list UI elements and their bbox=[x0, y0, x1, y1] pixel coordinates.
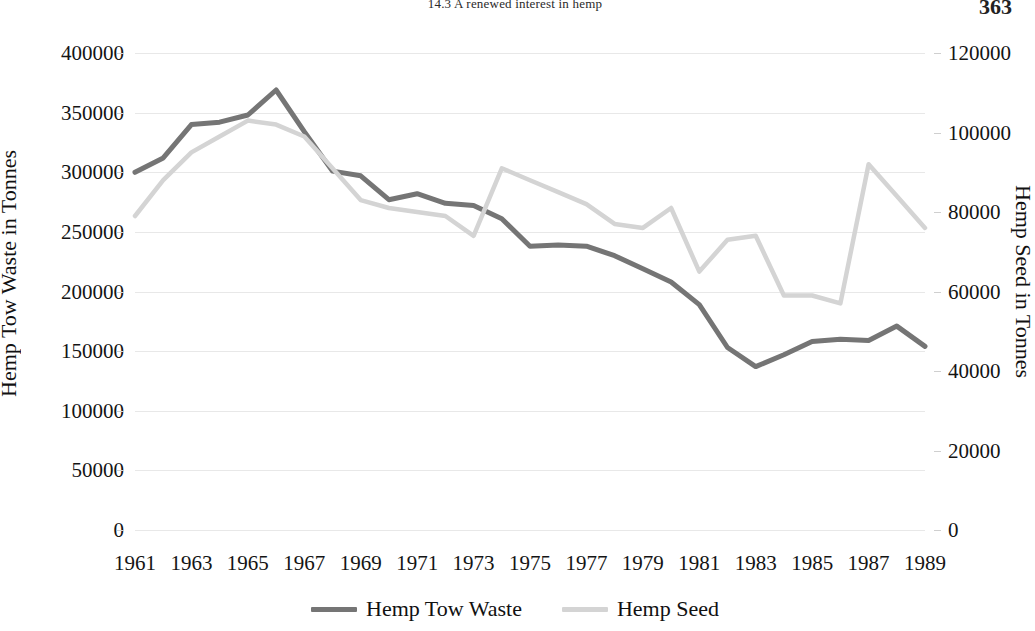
y-axis-right-tick-label: 0 bbox=[948, 518, 959, 543]
tick-mark bbox=[117, 292, 124, 293]
tick-mark bbox=[934, 212, 941, 213]
y-axis-left-tick-label: 150000 bbox=[61, 339, 124, 364]
gridline bbox=[135, 530, 925, 531]
x-axis-tick-label: 1961 bbox=[114, 551, 156, 576]
tick-mark bbox=[934, 53, 941, 54]
x-axis: 1961196319651967196919711973197519771979… bbox=[0, 551, 1030, 581]
y-axis-left-tick-label: 300000 bbox=[61, 160, 124, 185]
chart-legend: Hemp Tow Waste Hemp Seed bbox=[0, 596, 1030, 622]
tick-mark bbox=[117, 172, 124, 173]
y-axis-left-tick-label: 100000 bbox=[61, 398, 124, 423]
y-axis-left-tick-label: 350000 bbox=[61, 100, 124, 125]
x-axis-tick-label: 1973 bbox=[453, 551, 495, 576]
x-axis-tick-label: 1985 bbox=[791, 551, 833, 576]
y-axis-right-tick-label: 20000 bbox=[948, 438, 1001, 463]
x-axis-tick-label: 1981 bbox=[678, 551, 720, 576]
tick-mark bbox=[117, 530, 124, 531]
y-axis-left-tick-label: 200000 bbox=[61, 279, 124, 304]
tick-mark bbox=[934, 371, 941, 372]
y-axis-right-tick-label: 40000 bbox=[948, 359, 1001, 384]
plot-area bbox=[135, 53, 925, 530]
series-line bbox=[135, 90, 925, 367]
tick-mark bbox=[117, 351, 124, 352]
legend-item-hemp-seed[interactable]: Hemp Seed bbox=[562, 596, 719, 622]
legend-swatch-icon bbox=[311, 607, 357, 612]
y-axis-right-title: Hemp Seed in Tonnes bbox=[1010, 185, 1035, 378]
x-axis-tick-label: 1979 bbox=[622, 551, 664, 576]
legend-swatch-icon bbox=[562, 607, 608, 612]
y-axis-right: 020000400006000080000100000120000 Hemp S… bbox=[934, 0, 1030, 631]
y-axis-left-tick-label: 400000 bbox=[61, 41, 124, 66]
tick-mark bbox=[934, 133, 941, 134]
y-axis-left-title: Hemp Tow Waste in Tonnes bbox=[0, 150, 22, 397]
y-axis-right-tick-label: 100000 bbox=[948, 120, 1011, 145]
x-axis-tick-label: 1965 bbox=[227, 551, 269, 576]
tick-mark bbox=[117, 470, 124, 471]
y-axis-left: Hemp Tow Waste in Tonnes 050000100000150… bbox=[0, 0, 124, 631]
tick-mark bbox=[934, 451, 941, 452]
x-axis-tick-label: 1975 bbox=[509, 551, 551, 576]
tick-mark bbox=[117, 53, 124, 54]
x-axis-tick-label: 1989 bbox=[904, 551, 946, 576]
tick-mark bbox=[117, 232, 124, 233]
tick-mark bbox=[934, 292, 941, 293]
x-axis-tick-label: 1987 bbox=[848, 551, 890, 576]
x-axis-tick-label: 1967 bbox=[283, 551, 325, 576]
legend-label: Hemp Seed bbox=[617, 596, 719, 622]
legend-label: Hemp Tow Waste bbox=[366, 596, 522, 622]
y-axis-right-tick-label: 80000 bbox=[948, 200, 1001, 225]
x-axis-tick-label: 1977 bbox=[565, 551, 607, 576]
x-axis-tick-label: 1969 bbox=[340, 551, 382, 576]
series-line bbox=[135, 121, 925, 304]
x-axis-tick-label: 1983 bbox=[735, 551, 777, 576]
legend-item-hemp-tow-waste[interactable]: Hemp Tow Waste bbox=[311, 596, 522, 622]
tick-mark bbox=[117, 113, 124, 114]
y-axis-left-tick-label: 250000 bbox=[61, 219, 124, 244]
y-axis-right-tick-label: 60000 bbox=[948, 279, 1001, 304]
x-axis-tick-label: 1971 bbox=[396, 551, 438, 576]
y-axis-right-tick-label: 120000 bbox=[948, 41, 1011, 66]
x-axis-tick-label: 1963 bbox=[170, 551, 212, 576]
tick-mark bbox=[117, 411, 124, 412]
tick-mark bbox=[934, 530, 941, 531]
series-lines bbox=[135, 53, 925, 530]
